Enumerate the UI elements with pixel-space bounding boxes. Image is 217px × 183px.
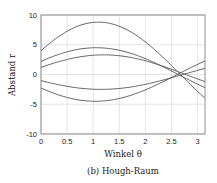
y-tick-label: 5 [33, 40, 37, 49]
x-tick-label: 0.5 [62, 137, 72, 146]
x-tick-labels: 00.511.522.53 [39, 137, 200, 146]
y-tick-labels: 1050-5-10 [26, 11, 37, 139]
y-tick-label: 0 [33, 70, 37, 79]
y-axis-label: Abstand r [7, 53, 17, 97]
x-tick-label: 1 [91, 137, 95, 146]
x-axis-label: Winkel θ [104, 149, 142, 159]
hough-space-chart: 00.511.522.53 1050-5-10 Winkel θ Abstand… [0, 0, 217, 183]
x-tick-label: 2 [143, 137, 147, 146]
y-tick-label: -10 [26, 130, 37, 139]
figure-caption: (b) Hough-Raum [87, 166, 159, 176]
x-tick-label: 3 [196, 137, 200, 146]
sinusoid-curves [41, 22, 205, 101]
y-tick-label: -5 [30, 100, 37, 109]
x-tick-label: 0 [39, 137, 43, 146]
x-tick-label: 1.5 [114, 137, 124, 146]
x-tick-label: 2.5 [166, 137, 176, 146]
series-curve-5 [41, 61, 205, 101]
series-curve-4 [41, 68, 205, 89]
series-curve-2 [41, 48, 205, 88]
series-curve-3 [41, 55, 205, 82]
y-tick-label: 10 [29, 11, 37, 20]
